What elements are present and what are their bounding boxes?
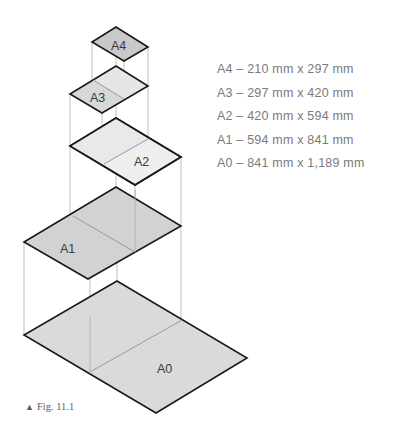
size-legend: A4 – 210 mm x 297 mm A3 – 297 mm x 420 m… xyxy=(217,62,365,180)
sheet-a2: A2 xyxy=(70,118,181,185)
sheet-label-a2: A2 xyxy=(134,155,149,169)
legend-item-a1: A1 – 594 mm x 841 mm xyxy=(217,133,365,157)
sheet-label-a4: A4 xyxy=(111,39,126,53)
legend-item-a3: A3 – 297 mm x 420 mm xyxy=(217,86,365,110)
sheet-label-a0: A0 xyxy=(157,362,172,376)
sheet-a4: A4 xyxy=(92,27,148,61)
legend-item-a2: A2 – 420 mm x 594 mm xyxy=(217,109,365,133)
legend-item-a0: A0 – 841 mm x 1,189 mm xyxy=(217,156,365,180)
triangle-up-icon: ▲ xyxy=(25,402,34,412)
sheet-a3: A3 xyxy=(70,66,148,113)
sheet-a1: A1 xyxy=(24,187,181,279)
legend-item-a4: A4 – 210 mm x 297 mm xyxy=(217,62,365,86)
caption-text: Fig. 11.1 xyxy=(37,401,74,412)
sheet-label-a3: A3 xyxy=(90,91,105,105)
sheet-a0: A0 xyxy=(24,281,247,413)
sheet-label-a1: A1 xyxy=(60,242,75,256)
figure-caption: ▲Fig. 11.1 xyxy=(25,401,74,412)
